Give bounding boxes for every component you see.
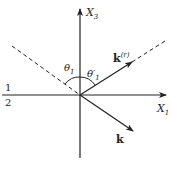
- x3-label: X3: [85, 6, 99, 21]
- wave-vector-k: [80, 95, 133, 131]
- reflected-vector-label: k(r): [113, 51, 130, 65]
- reflected-dashed-extension: [132, 41, 165, 62]
- theta1-label: θ1: [64, 62, 75, 76]
- medium-1-label: 1: [5, 82, 11, 93]
- theta1-prime-label: θ′1: [87, 68, 100, 82]
- theta1-arc: [65, 77, 80, 84]
- medium-2-label: 2: [5, 97, 11, 108]
- vector-k-label: k: [116, 133, 124, 146]
- reflection-diagram: X3 X1 1 2 θ1 θ′1 k(r) k: [0, 0, 171, 170]
- x1-label: X1: [156, 102, 169, 117]
